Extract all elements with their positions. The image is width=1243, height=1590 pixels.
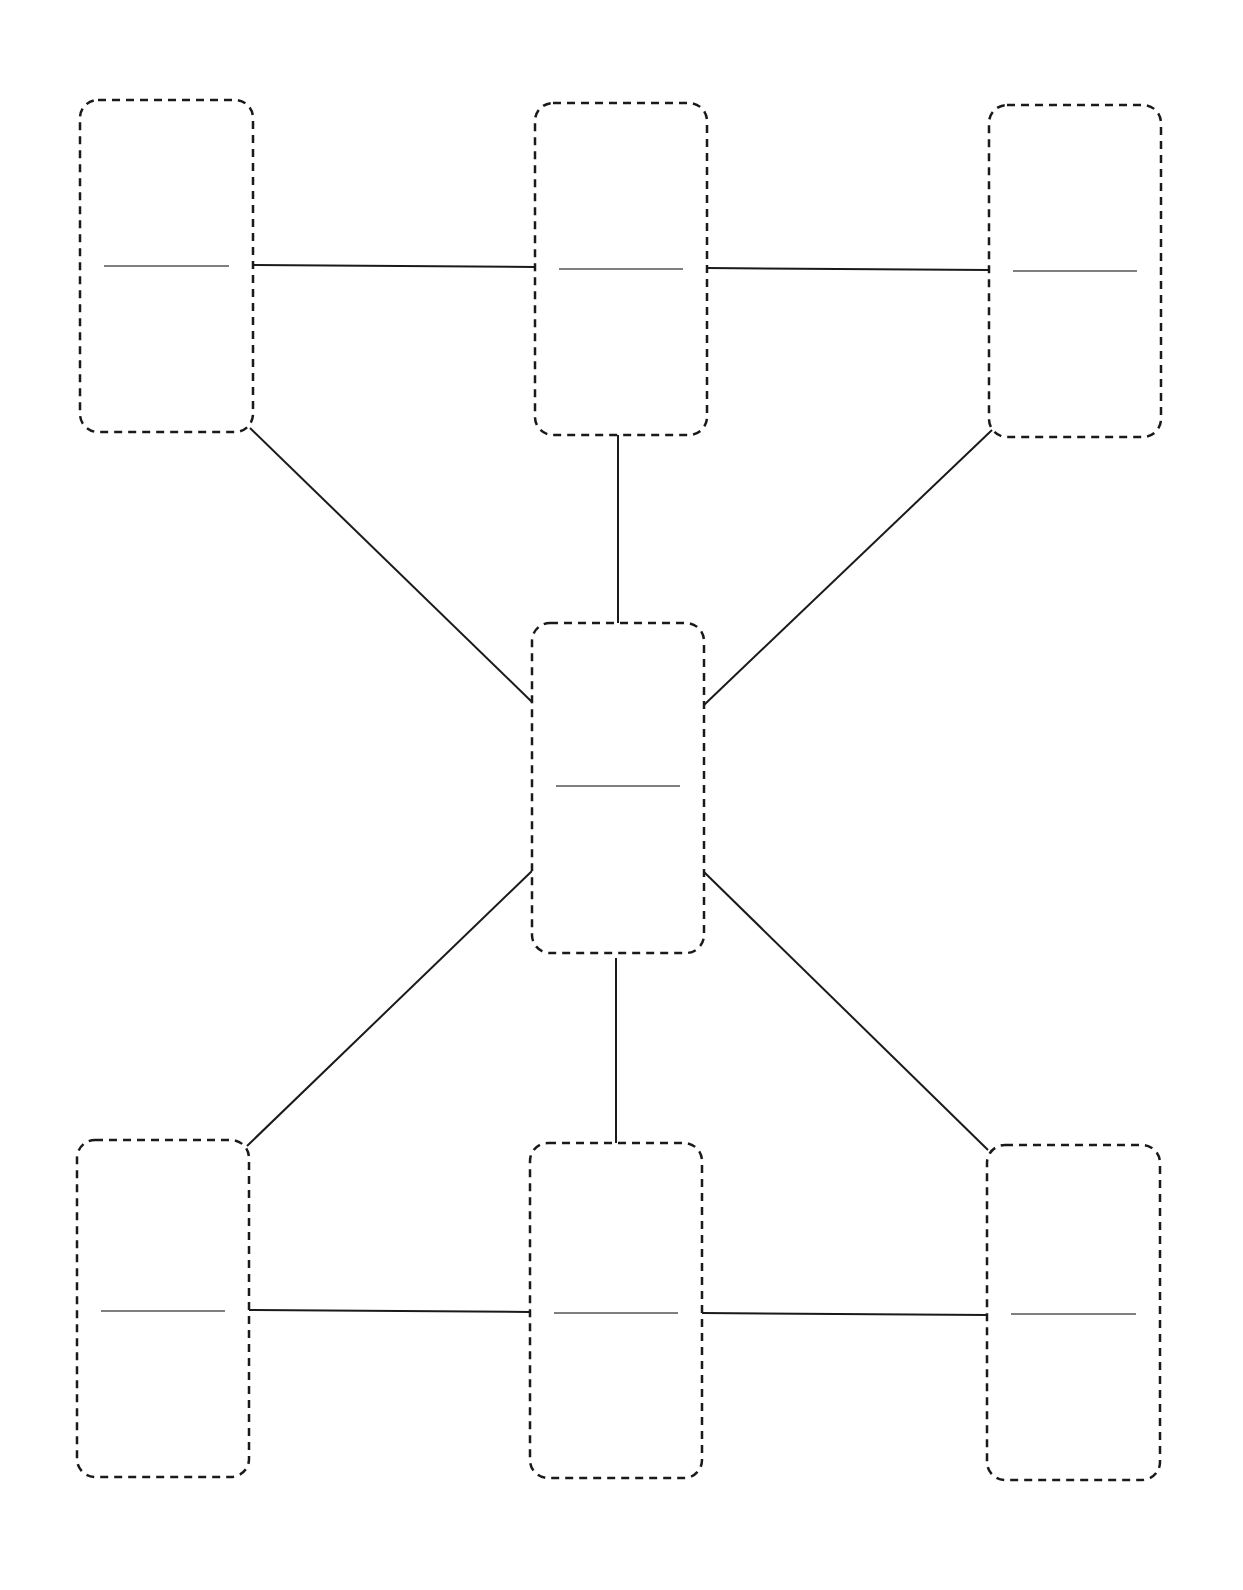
node-box-center[interactable] (532, 623, 704, 953)
node-box-bottom-center[interactable] (530, 1143, 702, 1478)
dashed-box-border (530, 1143, 702, 1478)
dashed-box-border (77, 1140, 249, 1477)
node-box-top-left[interactable] (80, 100, 253, 432)
node-box-top-center[interactable] (535, 103, 707, 435)
connector-center-to-bottom-left (247, 870, 533, 1146)
connector-bottom-center-to-bottom-right (702, 1313, 987, 1315)
node-box-bottom-left[interactable] (77, 1140, 249, 1477)
graphic-organizer-diagram (0, 0, 1243, 1590)
connector-top-left-to-top-center (253, 265, 535, 267)
dashed-box-border (987, 1145, 1160, 1480)
connector-top-center-to-top-right (707, 268, 989, 270)
node-box-top-right[interactable] (989, 105, 1161, 437)
connector-bottom-left-to-bottom-center (249, 1310, 530, 1312)
node-box-bottom-right[interactable] (987, 1145, 1160, 1480)
connector-top-right-to-center (704, 430, 992, 705)
connector-center-to-bottom-right (704, 872, 988, 1150)
dashed-box-border (532, 623, 704, 953)
node-boxes (77, 100, 1161, 1480)
connector-top-left-to-center (250, 428, 533, 703)
